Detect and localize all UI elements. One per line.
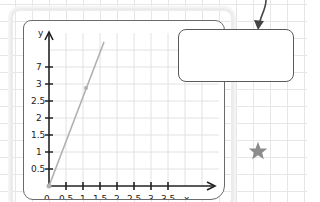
y-tick-label: 2: [36, 113, 42, 123]
x-tick-label: 3.5: [161, 194, 175, 199]
arrow-icon: [240, 0, 280, 32]
x-tick-label: 3: [148, 194, 154, 199]
data-line: [49, 42, 104, 186]
y-axis-label: y: [38, 28, 44, 38]
y-tick-label: 3: [36, 79, 42, 89]
callout-box[interactable]: [178, 29, 294, 82]
star-icon: [248, 141, 268, 161]
x-tick-label: 1.5: [93, 194, 107, 199]
x-tick-label: 2.5: [127, 194, 141, 199]
y-tick-label: 7: [36, 62, 42, 72]
origin-label: 0: [44, 194, 50, 199]
y-tick-label: 2.5: [31, 96, 45, 106]
x-tick-label: 1: [80, 194, 86, 199]
x-axis-label: x: [184, 194, 190, 199]
data-point-origin: [47, 184, 52, 189]
y-tick-label: 0.5: [31, 164, 45, 174]
data-point: [84, 86, 88, 90]
y-tick-label: 1.5: [31, 130, 45, 140]
x-tick-label: 0.5: [59, 194, 73, 199]
x-tick-label: 2: [114, 194, 120, 199]
y-tick-label: 1: [36, 147, 42, 157]
